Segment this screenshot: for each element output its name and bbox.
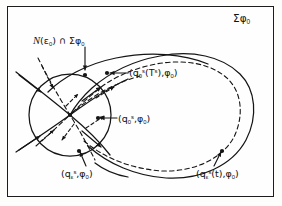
qepss-close: ) <box>89 168 93 179</box>
neighborhood-sub-2: 0 <box>81 41 84 47</box>
label-q0-s: (q0s,φ0) <box>118 114 150 124</box>
label-section-sigma-phi0: Σφ0 <box>233 13 250 24</box>
q0ts-open: (q <box>129 67 139 78</box>
dashed-homoclinic-loop <box>70 62 240 171</box>
qepss-comma: ,φ <box>76 168 85 179</box>
label-q0-s-of-Ts: (q0s(Ts),φ0) <box>129 68 177 78</box>
label-neighborhood-intersection: N(ε0) ∩ Σφ0 <box>33 36 84 47</box>
flow-arrow-dash-inner-up <box>66 94 78 106</box>
intersection-point-upper-circle <box>83 73 87 77</box>
phase-portrait-diagram <box>0 0 282 206</box>
intersection-point-qeps-t <box>220 149 224 153</box>
label-qeps-s: (qεs,φ0) <box>61 169 93 179</box>
leader-qeps-t <box>214 152 221 166</box>
flow-arrow-dash-inner-down <box>62 124 74 140</box>
solid-tail-lower-right <box>95 163 128 177</box>
intersection-point-saddle <box>68 113 72 117</box>
q0ts-close: ) <box>174 67 178 78</box>
q0ts-comma: ),φ <box>157 67 170 78</box>
flow-arrow-in-lower-left <box>19 136 40 150</box>
neighborhood-mid: ) ∩ Σφ <box>52 35 81 46</box>
qepst-mid: (t),φ <box>211 168 231 179</box>
qepst-open: (q <box>196 168 206 179</box>
flow-arrow-dash-upper <box>42 66 53 88</box>
q0s-comma: ,φ <box>134 113 143 124</box>
qepst-close: ) <box>235 168 239 179</box>
q0s-open: (q <box>118 113 128 124</box>
qepss-open: (q <box>61 168 71 179</box>
label-qeps-s-of-t: (qεs(t),φ0) <box>196 169 239 179</box>
q0s-close: ) <box>147 113 151 124</box>
flow-arrow-in-upper-left <box>19 75 41 92</box>
intersection-point-q0-ts <box>105 71 109 75</box>
intersection-point-qeps-s <box>77 149 81 153</box>
figure-root: Σφ0 N(ε0) ∩ Σφ0 (q0s(Ts),φ0) (q0s,φ0) (q… <box>0 0 282 206</box>
flow-arrow-out-lower-right <box>82 131 101 147</box>
unstable-manifold-branch-upper <box>38 58 95 160</box>
label-section-text: Σφ <box>233 12 247 24</box>
label-section-subscript: 0 <box>247 18 251 25</box>
neighborhood-prefix: (ε <box>40 35 49 46</box>
intersection-point-q0-s <box>96 116 100 120</box>
